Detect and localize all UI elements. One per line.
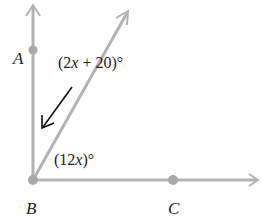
angle-label-upper-prefix: (2 (58, 54, 71, 71)
point-label-b: B (26, 200, 36, 217)
point-b-vertex (28, 175, 38, 185)
point-a (29, 46, 38, 55)
angle-label-lower-suffix: )° (82, 151, 94, 168)
angle-label-lower-prefix: (12 (54, 151, 75, 168)
point-c (168, 175, 178, 185)
angle-label-lower: (12x)° (54, 152, 94, 168)
pointer-arrow-icon (42, 87, 72, 128)
angle-label-upper: (2x + 20)° (58, 55, 123, 71)
point-label-c: C (168, 200, 179, 217)
ray-ba (26, 5, 40, 180)
angle-label-upper-suffix: + 20)° (78, 54, 123, 71)
ray-bc (33, 174, 258, 186)
angle-diagram (0, 0, 262, 224)
point-label-a: A (13, 50, 23, 67)
